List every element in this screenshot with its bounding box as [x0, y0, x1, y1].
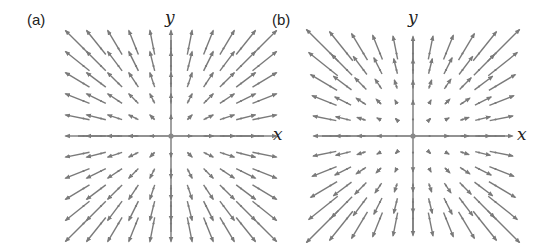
vector-arrow	[335, 167, 351, 175]
grid-point	[257, 100, 259, 102]
grid-point	[117, 135, 119, 137]
grid-point	[135, 47, 137, 49]
vector-arrow	[460, 98, 470, 105]
grid-point	[240, 187, 242, 189]
grid-point	[346, 85, 348, 87]
grid-point	[362, 52, 364, 54]
grid-point	[187, 170, 189, 172]
grid-point	[170, 152, 172, 154]
vector-arrow	[459, 197, 473, 215]
vector-arrow	[428, 36, 433, 59]
grid-point	[412, 184, 414, 186]
grid-point	[395, 168, 397, 170]
vector-arrow	[108, 152, 122, 157]
vector-arrow	[65, 115, 89, 120]
grid-point	[445, 69, 447, 71]
vector-arrow	[487, 210, 519, 242]
vector-arrow	[108, 185, 122, 199]
vector-arrow	[65, 94, 89, 104]
vector-arrow	[333, 182, 351, 196]
grid-point	[117, 65, 119, 67]
grid-point	[152, 205, 154, 207]
grid-point	[379, 151, 381, 153]
vector-arrow	[336, 152, 351, 156]
grid-point	[379, 69, 381, 71]
grid-point	[346, 118, 348, 120]
grid-point	[205, 205, 207, 207]
grid-point	[205, 135, 207, 137]
grid-point	[461, 102, 463, 104]
grid-point	[412, 201, 414, 203]
vector-arrow	[312, 167, 336, 177]
grid-point	[135, 152, 137, 154]
grid-point	[187, 117, 189, 119]
vector-arrow	[332, 55, 353, 76]
vector-arrow	[129, 52, 139, 71]
vector-arrow	[108, 52, 122, 71]
vector-arrow	[356, 98, 366, 105]
grid-point	[494, 184, 496, 186]
grid-point	[170, 65, 172, 67]
vector-arrow	[129, 201, 139, 220]
grid-point	[222, 82, 224, 84]
grid-point	[445, 184, 447, 186]
grid-point	[461, 217, 463, 219]
vector-arrow	[475, 167, 491, 175]
grid-point	[478, 184, 480, 186]
grid-point	[329, 151, 331, 153]
vector-arrow	[313, 151, 336, 156]
grid-point	[478, 135, 480, 137]
grid-point	[240, 100, 242, 102]
vector-arrow	[204, 52, 214, 71]
grid-point	[100, 222, 102, 224]
grid-point	[445, 52, 447, 54]
grid-point	[494, 102, 496, 104]
grid-point	[445, 168, 447, 170]
grid-point	[205, 152, 207, 154]
grid-point	[461, 85, 463, 87]
grid-point	[329, 102, 331, 104]
vector-arrow	[129, 185, 139, 199]
vector-arrow	[108, 94, 122, 104]
grid-point	[461, 135, 463, 137]
grid-point	[100, 187, 102, 189]
grid-point	[329, 201, 331, 203]
grid-point	[395, 69, 397, 71]
grid-point	[100, 170, 102, 172]
vector-arrow	[236, 217, 255, 241]
grid-point	[461, 184, 463, 186]
grid-point	[362, 217, 364, 219]
vector-arrow	[444, 58, 452, 74]
vector-arrow	[204, 94, 214, 104]
vector-arrow	[65, 152, 89, 157]
grid-point	[100, 82, 102, 84]
grid-point	[240, 152, 242, 154]
vector-arrow	[460, 167, 470, 174]
grid-point	[187, 135, 189, 137]
grid-point	[117, 82, 119, 84]
grid-point	[379, 217, 381, 219]
vector-arrow	[65, 169, 89, 179]
grid-point	[329, 118, 331, 120]
grid-point	[445, 217, 447, 219]
grid-point	[346, 184, 348, 186]
grid-point	[152, 187, 154, 189]
grid-point	[187, 47, 189, 49]
vector-arrow	[375, 79, 382, 89]
grid-point	[205, 222, 207, 224]
vector-arrow	[374, 198, 382, 214]
grid-point	[170, 187, 172, 189]
vector-arrow	[252, 30, 276, 54]
grid-point	[346, 168, 348, 170]
vector-arrow	[236, 185, 255, 199]
grid-point	[82, 187, 84, 189]
vector-arrow	[374, 58, 382, 74]
vector-arrow	[444, 198, 452, 214]
grid-point	[257, 152, 259, 154]
grid-point	[187, 152, 189, 154]
vector-arrow	[252, 217, 276, 241]
grid-point	[82, 82, 84, 84]
grid-point	[395, 85, 397, 87]
grid-point	[461, 151, 463, 153]
grid-point	[428, 168, 430, 170]
